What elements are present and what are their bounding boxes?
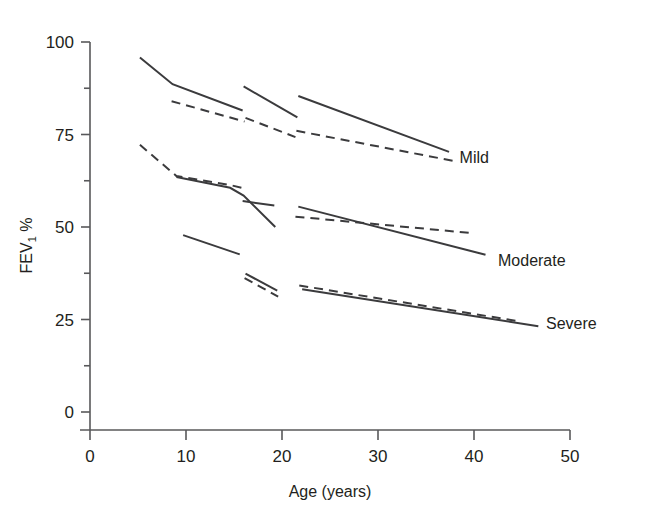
y-axis-title-main: FEV — [18, 242, 35, 273]
series-annotations: MildModerateSevere — [460, 149, 597, 333]
x-axis-title: Age (years) — [289, 483, 372, 500]
series-mild-solid-segment-2 — [244, 86, 298, 117]
series-moderate-dashed-segment-1 — [140, 145, 245, 189]
series-moderate-solid-segment-3 — [298, 207, 485, 255]
y-tick-label: 25 — [55, 311, 74, 330]
moderate-label: Moderate — [498, 252, 566, 269]
severe-label: Severe — [546, 315, 597, 332]
y-axis-title-text: FEV1 % — [18, 218, 38, 274]
x-tick-label: 20 — [273, 447, 292, 466]
y-tick-label: 50 — [55, 218, 74, 237]
series-moderate-dashed-segment-2 — [295, 217, 470, 233]
data-curves — [140, 58, 538, 327]
y-tick-label: 0 — [65, 403, 74, 422]
axes — [80, 42, 570, 440]
series-severe-solid-segment-1 — [183, 235, 240, 254]
fev1-age-line-chart: 025507510001020304050 MildModerateSevere… — [0, 0, 660, 529]
tick-labels: 025507510001020304050 — [46, 33, 580, 466]
y-axis-title-unit: % — [18, 218, 35, 237]
series-moderate-solid-segment-2 — [243, 201, 275, 205]
x-tick-label: 10 — [177, 447, 196, 466]
series-severe-solid-segment-3 — [302, 289, 538, 326]
series-severe-dashed-segment-2 — [299, 285, 517, 321]
chart-container: 025507510001020304050 MildModerateSevere… — [0, 0, 660, 529]
series-mild-dashed-segment-1 — [172, 101, 245, 121]
series-mild-solid-segment-3 — [298, 96, 449, 152]
x-tick-label: 30 — [369, 447, 388, 466]
x-tick-label: 40 — [465, 447, 484, 466]
mild-label: Mild — [460, 149, 489, 166]
y-axis-title: FEV1 % — [18, 218, 38, 274]
series-severe-dashed-segment-1 — [245, 278, 279, 297]
x-tick-label: 50 — [561, 447, 580, 466]
series-mild-solid-segment-1 — [140, 58, 243, 111]
series-mild-dashed-segment-2 — [246, 118, 296, 137]
x-tick-label: 0 — [85, 447, 94, 466]
y-tick-label: 75 — [55, 126, 74, 145]
y-tick-label: 100 — [46, 33, 74, 52]
